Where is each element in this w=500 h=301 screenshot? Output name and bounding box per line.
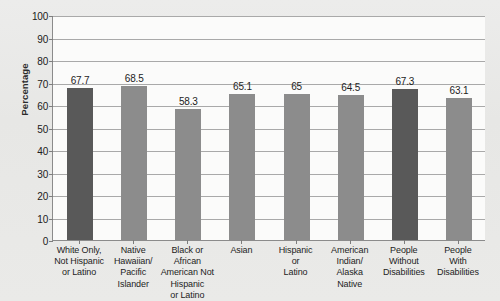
bar	[67, 88, 93, 240]
bar-value-label: 65.1	[212, 81, 272, 92]
gridline	[53, 219, 485, 220]
y-axis-tick-mark	[49, 61, 53, 62]
bar-value-label: 65	[267, 81, 327, 92]
gridline	[53, 39, 485, 40]
y-axis-tick-label: 90	[8, 33, 48, 44]
gridline	[53, 16, 485, 17]
gridline	[53, 196, 485, 197]
y-axis-tick-mark	[49, 151, 53, 152]
gridline	[53, 174, 485, 175]
y-axis-tick-label: 40	[8, 146, 48, 157]
x-axis-tick-mark	[187, 240, 188, 244]
y-axis-tick-mark	[49, 241, 53, 242]
bar-value-label: 63.1	[429, 85, 489, 96]
bar-value-label: 64.5	[321, 82, 381, 93]
bar-value-label: 58.3	[158, 96, 218, 107]
x-axis-tick-mark	[79, 240, 80, 244]
y-axis-tick-mark	[49, 219, 53, 220]
gridline	[53, 129, 485, 130]
gridline	[53, 151, 485, 152]
y-axis-tick-label: 20	[8, 191, 48, 202]
y-axis-tick-mark	[49, 174, 53, 175]
bar	[175, 109, 201, 240]
y-axis-tick-mark	[49, 129, 53, 130]
bar-value-label: 68.5	[104, 73, 164, 84]
y-axis-tick-mark	[49, 39, 53, 40]
gridline	[53, 61, 485, 62]
y-axis-tick-mark	[49, 16, 53, 17]
plot-area: 67.768.558.365.16564.567.363.1	[52, 16, 485, 241]
bar	[338, 95, 364, 240]
y-axis-tick-label: 0	[8, 236, 48, 247]
x-axis-tick-mark	[241, 240, 242, 244]
bar-value-label: 67.7	[50, 75, 110, 86]
x-axis-tick-mark	[458, 240, 459, 244]
y-axis-tick-label: 30	[8, 168, 48, 179]
gridline	[53, 106, 485, 107]
y-axis-tick-mark	[49, 196, 53, 197]
bar-value-label: 67.3	[375, 76, 435, 87]
bar	[392, 89, 418, 240]
x-axis-tick-mark	[350, 240, 351, 244]
bar-chart: Percentage 1009080706050403020100 67.768…	[0, 0, 500, 301]
x-axis-tick-mark	[404, 240, 405, 244]
bar	[121, 86, 147, 240]
x-axis-category-label: HispanicorLatino	[269, 245, 323, 279]
x-axis-category-label: AmericanIndian/AlaskaNative	[323, 245, 377, 290]
x-axis-tick-mark	[296, 240, 297, 244]
y-axis-tick-label: 70	[8, 78, 48, 89]
x-axis-category-label: PeopleWithoutDisabilities	[377, 245, 431, 279]
x-axis-category-label: White Only,Not Hispanicor Latino	[52, 245, 106, 279]
bar	[446, 98, 472, 240]
y-axis-tick-label: 50	[8, 123, 48, 134]
y-axis-tick-label: 80	[8, 56, 48, 67]
x-axis-tick-mark	[133, 240, 134, 244]
bar	[229, 94, 255, 240]
x-axis-category-label: Black or AfricanAmerican NotHispanicor L…	[160, 245, 214, 301]
x-axis-category-label: PeopleWithDisabilities	[431, 245, 485, 279]
y-axis-tick-label: 10	[8, 213, 48, 224]
y-axis-tick-label: 60	[8, 101, 48, 112]
x-axis-category-label: NativeHawaiian/PacificIslander	[106, 245, 160, 290]
y-axis-tick-labels: 1009080706050403020100	[4, 16, 48, 241]
y-axis-tick-mark	[49, 106, 53, 107]
y-axis-tick-label: 100	[8, 11, 48, 22]
bar	[284, 94, 310, 240]
x-axis-category-label: Asian	[214, 245, 268, 256]
x-axis-category-labels: White Only,Not Hispanicor LatinoNativeHa…	[52, 245, 485, 301]
